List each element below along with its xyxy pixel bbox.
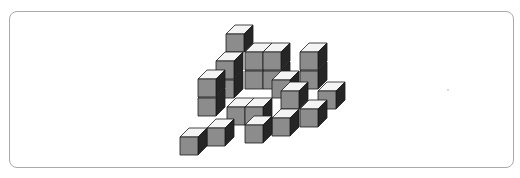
stray-mark <box>447 89 449 91</box>
cube-structure-figure <box>0 0 520 178</box>
cube <box>207 119 234 146</box>
cube <box>272 109 299 136</box>
cube <box>180 128 207 155</box>
